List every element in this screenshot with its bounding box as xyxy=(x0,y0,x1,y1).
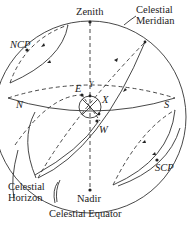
celestial-equator-label: Celestial Equator xyxy=(49,209,122,220)
nadir-point xyxy=(88,188,91,191)
west-label: W xyxy=(99,125,108,136)
celestial-horizon-label-2: Horizon xyxy=(8,192,42,203)
celestial-horizon-label-1: Celestial xyxy=(8,181,45,192)
arrow-icon xyxy=(114,58,118,62)
nadir-label: Nadir xyxy=(77,194,101,205)
meridian-top-point xyxy=(144,41,147,44)
observer-top-point xyxy=(89,95,92,98)
meridian-leader xyxy=(124,16,136,25)
diurnal-path-front xyxy=(38,42,145,178)
arrow-icon xyxy=(123,88,127,92)
scp-circle-front-2 xyxy=(118,128,180,186)
east-label: E xyxy=(75,84,81,95)
equator-leader xyxy=(54,182,58,203)
south-label: S xyxy=(164,100,169,111)
diurnal-path-back xyxy=(38,42,145,178)
scp-label: SCP xyxy=(155,163,174,174)
ncp-circle-back xyxy=(10,25,68,83)
arrow-icon xyxy=(152,152,156,155)
ncp-circle-front xyxy=(10,25,68,83)
celestial-meridian-label-2: Meridian xyxy=(136,15,175,26)
observer-right-point xyxy=(98,113,101,116)
north-label: N xyxy=(16,100,23,111)
zenith-label: Zenith xyxy=(76,7,103,18)
zenith-point xyxy=(88,20,91,23)
celestial-meridian-label-1: Celestial xyxy=(136,4,173,15)
observer-y-label: Y xyxy=(89,81,93,89)
arrow-icon xyxy=(142,140,146,143)
west-point xyxy=(95,119,98,122)
arrow-icon xyxy=(47,60,51,63)
arrow-icon xyxy=(41,43,45,47)
ncp-label: NCP xyxy=(10,40,30,51)
celestial-equator-front xyxy=(35,122,98,175)
observer-x-label: X xyxy=(102,95,108,106)
lower-left-curve xyxy=(28,112,36,178)
